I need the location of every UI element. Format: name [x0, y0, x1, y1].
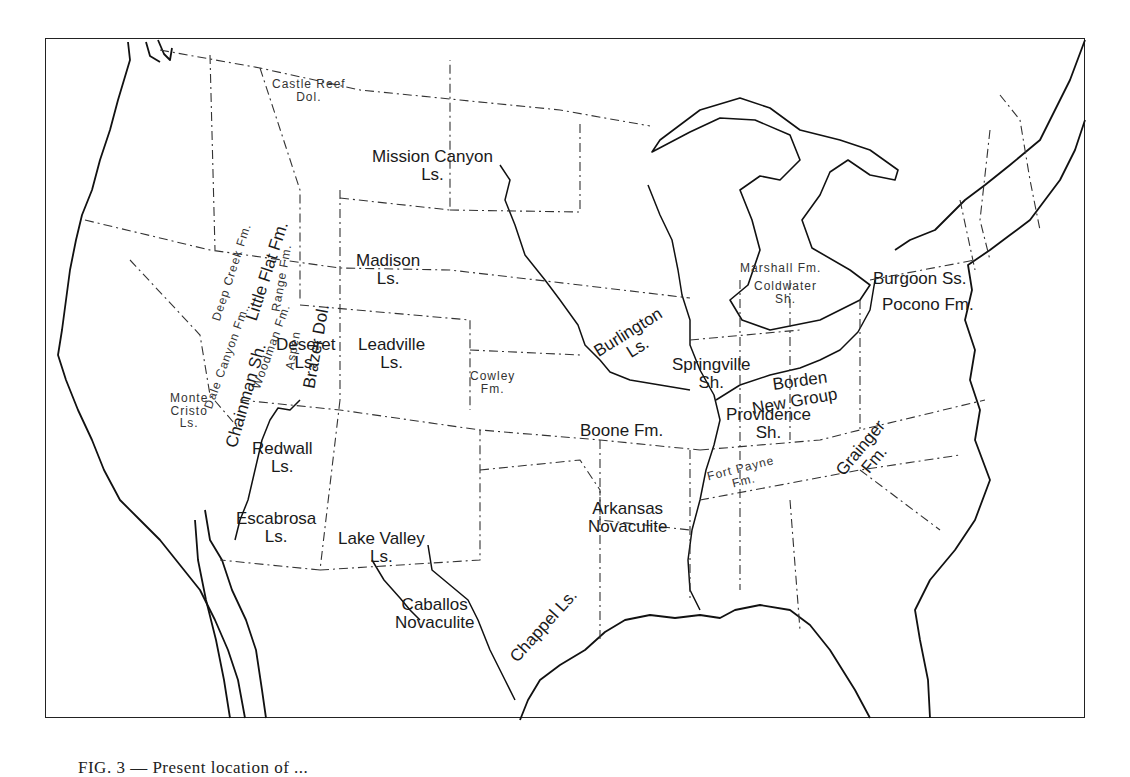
label-escabrosa-ls: Escabrosa Ls. [236, 510, 316, 546]
label-deseret-ls: Deseret Ls. [276, 336, 336, 372]
label-marshall-fm: Marshall Fm. [740, 262, 821, 275]
label-cowley-fm: Cowley Fm. [470, 370, 515, 395]
atlantic-coastline [915, 120, 1085, 718]
label-springville-sh: Springville Sh. [672, 356, 750, 392]
label-boone-fm: Boone Fm. [580, 422, 663, 440]
label-arkansas-novaculite: Arkansas Novaculite [588, 500, 667, 536]
mississippi-river [648, 185, 720, 610]
label-coldwater-sh: Coldwater Sh. [754, 280, 817, 305]
label-mission-canyon-ls: Mission Canyon Ls. [372, 148, 493, 184]
label-leadville-ls: Leadville Ls. [358, 336, 425, 372]
figure-caption: FIG. 3 — Present location of ... [78, 758, 308, 777]
label-burgoon-ss: Burgoon Ss. [873, 270, 967, 288]
label-madison-ls: Madison Ls. [356, 252, 420, 288]
label-pocono-fm: Pocono Fm. [882, 296, 974, 314]
label-redwall-ls: Redwall Ls. [252, 440, 312, 476]
label-castle-reef-dol: Castle Reef Dol. [272, 78, 346, 103]
label-providence-sh: Providence Sh. [726, 406, 811, 442]
gulf-coastline [520, 605, 870, 720]
label-monte-cristo-ls: Monte Cristo Ls. [170, 392, 208, 430]
label-caballos-novaculite: Caballos Novaculite [395, 596, 474, 632]
label-lake-valley-ls: Lake Valley Ls. [338, 530, 425, 566]
